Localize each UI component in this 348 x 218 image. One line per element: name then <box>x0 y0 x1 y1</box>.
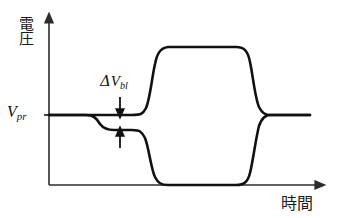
delta-vbl-variable: V <box>111 73 120 89</box>
delta-symbol: Δ <box>100 72 111 90</box>
voltage-time-waveform-figure: 電圧 時間 Vpr ΔVbl <box>0 0 348 218</box>
vpr-subscript: pr <box>17 110 27 122</box>
waveform-traces-group <box>49 47 310 185</box>
y-axis-label-voltage: 電圧 <box>14 16 32 46</box>
waveform-plot-canvas <box>0 0 348 218</box>
delta-vbl-label: ΔVbl <box>100 72 128 91</box>
vpr-variable: V <box>7 103 17 120</box>
vpr-level-label: Vpr <box>7 103 26 122</box>
delta-vbl-subscript: bl <box>120 80 128 91</box>
upper-trace-bitline-true <box>49 47 310 115</box>
x-axis-label-time: 時間 <box>281 190 313 214</box>
lower-trace-bitline-complement <box>49 115 310 185</box>
